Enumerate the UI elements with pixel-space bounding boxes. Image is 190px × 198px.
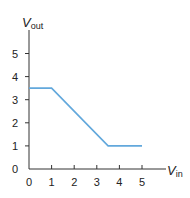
y-tick-label: 5 xyxy=(12,48,18,60)
y-tick-label: 3 xyxy=(12,94,18,106)
y-axis-label: Vout xyxy=(22,15,44,31)
x-tick-label: 1 xyxy=(49,176,55,188)
chart-figure: 012345012345VoutVin xyxy=(0,0,190,198)
y-tick-label: 4 xyxy=(12,71,18,83)
x-tick-label: 5 xyxy=(139,176,145,188)
y-tick-label: 1 xyxy=(12,140,18,152)
transfer-characteristic-plot: 012345012345VoutVin xyxy=(0,0,190,198)
x-tick-label: 4 xyxy=(116,176,122,188)
y-tick-label: 2 xyxy=(12,117,18,129)
series-line xyxy=(29,88,142,146)
x-tick-label: 2 xyxy=(71,176,77,188)
x-tick-label: 0 xyxy=(26,176,32,188)
y-tick-label: 0 xyxy=(12,163,18,175)
x-tick-label: 3 xyxy=(94,176,100,188)
x-axis-label: Vin xyxy=(167,163,183,179)
